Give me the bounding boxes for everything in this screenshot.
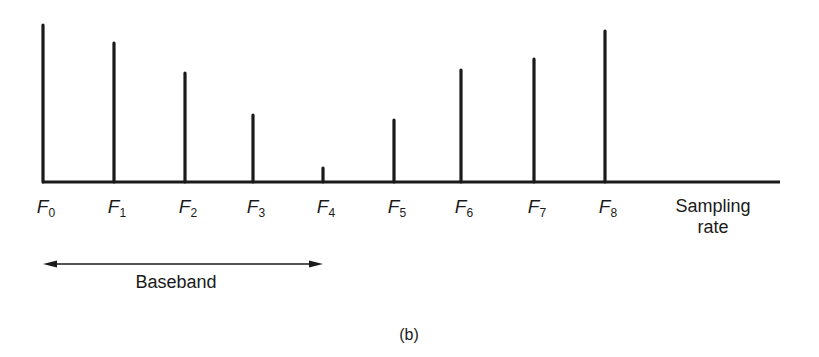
label-f5: F5 <box>388 196 406 220</box>
label-subscript: 2 <box>190 206 197 220</box>
label-base: F <box>37 196 49 217</box>
label-base: F <box>317 196 329 217</box>
x-axis-label-line1: Sampling <box>675 196 750 217</box>
label-base: F <box>599 196 611 217</box>
x-axis-label: Sampling rate <box>675 196 750 238</box>
label-base: F <box>455 196 467 217</box>
label-f1: F1 <box>108 196 126 220</box>
label-subscript: 7 <box>539 206 546 220</box>
label-subscript: 1 <box>119 206 126 220</box>
label-subscript: 3 <box>258 206 265 220</box>
arrowhead-right-icon <box>309 261 323 268</box>
label-subscript: 8 <box>610 206 617 220</box>
label-f2: F2 <box>179 196 197 220</box>
label-subscript: 5 <box>399 206 406 220</box>
label-f3: F3 <box>247 196 265 220</box>
baseband-arrow <box>43 261 323 268</box>
x-axis-label-line2: rate <box>675 217 750 238</box>
spectrum-diagram <box>0 0 819 357</box>
label-subscript: 0 <box>48 206 55 220</box>
label-base: F <box>528 196 540 217</box>
label-base: F <box>247 196 259 217</box>
label-f7: F7 <box>528 196 546 220</box>
label-f4: F4 <box>317 196 335 220</box>
spectral-lines <box>43 25 605 182</box>
label-subscript: 4 <box>328 206 335 220</box>
label-base: F <box>179 196 191 217</box>
label-subscript: 6 <box>466 206 473 220</box>
label-f8: F8 <box>599 196 617 220</box>
arrowhead-left-icon <box>43 261 57 268</box>
figure-caption: (b) <box>399 326 419 344</box>
label-f0: F0 <box>37 196 55 220</box>
label-base: F <box>108 196 120 217</box>
label-f6: F6 <box>455 196 473 220</box>
label-base: F <box>388 196 400 217</box>
baseband-label: Baseband <box>135 272 216 293</box>
